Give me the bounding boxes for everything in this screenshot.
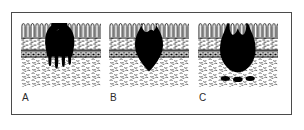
panel-b: B <box>109 23 189 111</box>
panel-b-tissue <box>109 23 189 87</box>
panel-c-embolus <box>221 76 230 81</box>
panel-a-submucosa <box>21 57 101 87</box>
panel-c-lesion <box>220 23 256 72</box>
panel-a: A <box>21 23 101 111</box>
panel-a-label: A <box>22 93 29 103</box>
panel-c-label: C <box>199 93 206 103</box>
panel-c-embolus <box>246 76 255 81</box>
panel-c: C <box>198 23 278 111</box>
panel-a-tissue <box>21 23 101 87</box>
figure-frame: A <box>11 12 292 115</box>
panel-b-label: B <box>110 93 117 103</box>
histology-figure: A <box>0 0 304 130</box>
panel-c-tissue <box>198 23 278 87</box>
panel-c-embolus <box>233 77 243 82</box>
